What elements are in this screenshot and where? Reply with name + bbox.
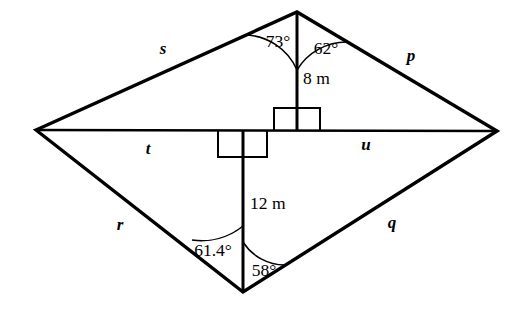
- angle-label-62: 62°: [314, 38, 339, 58]
- horizontal-diagonal: [36, 130, 497, 131]
- side-label-q: q: [388, 213, 397, 232]
- diagram-canvas: s p r q t u 73° 62° 61.4° 58° 8 m 12 m: [0, 0, 523, 315]
- length-label-12m: 12 m: [250, 193, 286, 213]
- diagonal-label-t: t: [146, 139, 152, 158]
- length-label-8m: 8 m: [303, 68, 330, 88]
- side-label-r: r: [117, 215, 124, 234]
- side-label-p: p: [405, 46, 416, 65]
- geometry-diagram: s p r q t u 73° 62° 61.4° 58° 8 m 12 m: [0, 0, 523, 315]
- angle-label-58: 58°: [252, 260, 277, 280]
- diagonal-label-u: u: [361, 135, 370, 154]
- angle-label-73: 73°: [266, 31, 291, 51]
- side-label-s: s: [159, 39, 167, 58]
- angle-arc-bottom-left: [192, 226, 243, 241]
- angle-label-61-4: 61.4°: [194, 240, 232, 260]
